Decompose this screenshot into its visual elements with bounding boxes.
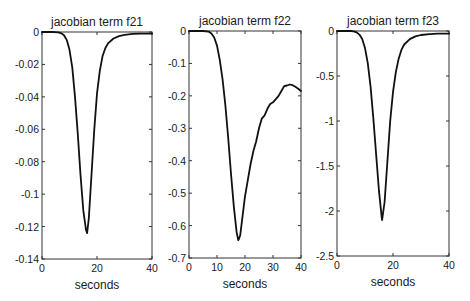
x-tick-label: 40: [295, 261, 307, 273]
x-tick-label: 20: [91, 262, 103, 274]
x-tick-label: 10: [211, 261, 223, 273]
y-tick-label: -0.04: [15, 91, 39, 103]
y-tick-label: -2: [325, 205, 334, 217]
x-tick-label: 40: [443, 259, 455, 271]
y-tick-label: -0.08: [15, 156, 39, 168]
y-tick-label: -0.3: [168, 122, 186, 134]
y-tick-label: -0.06: [15, 123, 39, 135]
y-tick-label: -0.2: [168, 90, 186, 102]
x-axis-label: seconds: [223, 277, 268, 291]
x-tick-label: 0: [186, 261, 192, 273]
figure-canvas: jacobian term f21 0-0.02-0.04-0.06-0.08-…: [0, 0, 470, 301]
y-tick-label: -0.4: [168, 155, 186, 167]
subplot-f21: jacobian term f21 0-0.02-0.04-0.06-0.08-…: [15, 15, 158, 292]
y-tick-label: -0.7: [168, 252, 186, 264]
y-tick-label: -0.12: [15, 221, 39, 233]
x-axis-label: seconds: [371, 275, 416, 289]
subplot-title: jacobian term f21: [50, 15, 143, 29]
x-tick-label: 20: [387, 259, 399, 271]
axes-frame: [337, 31, 449, 256]
y-tick-label: 0: [180, 25, 186, 37]
axes-frame: [42, 32, 152, 259]
y-tick-label: 0: [33, 26, 39, 38]
y-tick-label: -0.5: [168, 187, 186, 199]
y-tick-label: -0.1: [168, 57, 186, 69]
y-tick-label: -0.5: [316, 70, 334, 82]
x-tick-label: 20: [239, 261, 251, 273]
subplot-title: jacobian term f23: [346, 14, 439, 28]
x-tick-label: 0: [334, 259, 340, 271]
y-tick-label: -1.5: [316, 160, 334, 172]
x-tick-label: 40: [146, 262, 158, 274]
y-tick-label: 0: [328, 25, 334, 37]
subplot-f22: jacobian term f22 0-0.1-0.2-0.3-0.4-0.5-…: [168, 14, 307, 291]
x-tick-label: 0: [39, 262, 45, 274]
x-tick-label: 30: [267, 261, 279, 273]
y-tick-label: -0.02: [15, 58, 39, 70]
subplot-title: jacobian term f22: [198, 14, 291, 28]
axes-frame: [189, 31, 301, 258]
x-axis-label: seconds: [75, 278, 120, 292]
y-tick-label: -0.14: [15, 253, 39, 265]
y-tick-label: -0.1: [21, 188, 39, 200]
y-tick-label: -1: [325, 115, 334, 127]
y-tick-label: -0.6: [168, 220, 186, 232]
y-tick-label: -2.5: [316, 250, 334, 262]
subplot-f23: jacobian term f23 0-0.5-1-1.5-2-2.5 0204…: [316, 14, 455, 289]
